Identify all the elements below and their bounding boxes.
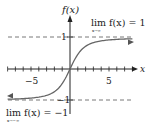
x-tick-label-5: 5 — [106, 76, 112, 86]
limit-top-annotation: lim f(x) = 1 — [91, 17, 145, 28]
x-axis-label: x — [140, 64, 145, 74]
x-axis-arrow-icon — [132, 67, 138, 72]
limit-bottom-annotation: lim f(x) = −1 — [6, 107, 68, 118]
y-axis-arrow-icon — [68, 15, 73, 22]
curve-right-arrow-icon — [128, 40, 134, 46]
x-tick-label-neg5: −5 — [25, 76, 39, 86]
limit-bottom-subscript: x→−∞ — [7, 118, 19, 123]
curve-left-arrow-icon — [7, 93, 13, 99]
y-tick-label-neg1: −1 — [57, 95, 70, 105]
limit-chart: f(x) x −5 5 1 −1 lim f(x) = 1 x→∞ lim f(… — [0, 0, 151, 135]
y-tick-label-1: 1 — [61, 32, 67, 42]
limit-top-subscript: x→∞ — [92, 28, 101, 33]
y-axis-label: f(x) — [61, 4, 79, 15]
